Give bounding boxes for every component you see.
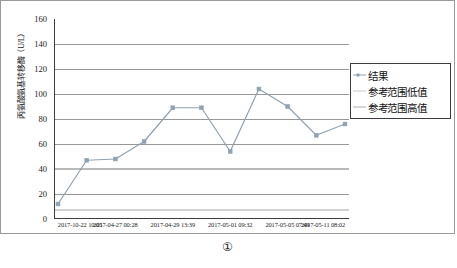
y-tick-label: 140: [34, 39, 47, 49]
series-markers: [56, 87, 347, 206]
x-tick-label: 2017-04-29 13:39: [151, 221, 195, 228]
y-tick-label: 120: [34, 64, 47, 74]
y-axis-tick-labels: 160140120100806040200: [1, 19, 53, 219]
x-axis-tick-labels: 2017-10-22 10:052017-04-27 00:282017-04-…: [1, 221, 456, 235]
legend-swatch-icon: [353, 70, 366, 80]
legend-item[interactable]: 结果: [353, 67, 447, 83]
y-tick-label: 20: [39, 189, 48, 199]
legend-label: 参考范围高值: [368, 100, 426, 115]
figure-caption: ①: [0, 240, 455, 254]
chart-legend: 结果参考范围低值参考范围高值: [350, 63, 451, 119]
figure-page: 丙氨酸氨基转移酶（U/L） 160140120100806040200 2017…: [0, 0, 457, 268]
legend-label: 参考范围低值: [368, 84, 426, 99]
x-tick-label: 2017-04-27 00:28: [93, 221, 137, 228]
legend-label: 结果: [368, 68, 387, 83]
plot-area: [54, 19, 349, 219]
x-tick-label: 2017-05-01 09:32: [208, 221, 252, 228]
reference-lines: [54, 169, 349, 210]
y-tick-label: 80: [39, 114, 48, 124]
legend-swatch-icon: [353, 102, 366, 112]
y-tick-label: 60: [39, 139, 48, 149]
x-tick-label: 2017-05-11 08:02: [301, 221, 345, 228]
gridlines: [54, 44, 349, 194]
legend-swatch-icon: [353, 86, 366, 96]
legend-item[interactable]: 参考范围高值: [353, 99, 447, 115]
figure-frame: 丙氨酸氨基转移酶（U/L） 160140120100806040200 2017…: [0, 0, 455, 234]
chart-svg: [54, 19, 349, 219]
y-tick-label: 100: [34, 89, 47, 99]
y-tick-label: 160: [34, 14, 47, 24]
y-tick-label: 40: [39, 164, 48, 174]
legend-item[interactable]: 参考范围低值: [353, 83, 447, 99]
